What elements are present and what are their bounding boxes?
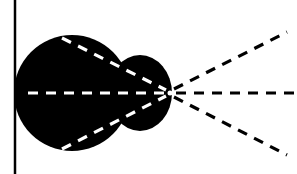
outer-rays [174, 32, 297, 155]
ray-diagram [0, 0, 297, 174]
outer-ray-2 [174, 97, 287, 155]
focal-point [168, 91, 173, 96]
outer-ray-0 [174, 32, 287, 89]
